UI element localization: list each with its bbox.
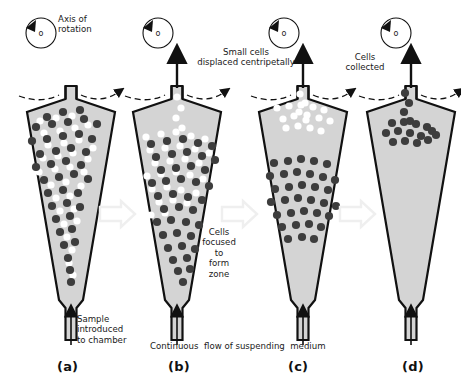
dark-cell-c-5	[266, 172, 274, 180]
light-cell-a-25	[56, 207, 63, 214]
rotation-center-mark-1: o	[156, 29, 161, 38]
dark-cell-c-20	[320, 199, 328, 207]
dark-cell-a-7	[93, 120, 101, 128]
light-cell-a-22	[77, 182, 84, 189]
dark-cell-d-2	[400, 108, 408, 116]
dark-cell-a-15	[67, 144, 75, 152]
dark-cell-a-27	[74, 189, 82, 197]
light-cell-a-24	[66, 192, 73, 199]
dark-cell-c-18	[294, 194, 302, 202]
light-cell-b-5	[157, 130, 164, 137]
sample-introduced-label: Sample introduced to chamber	[77, 314, 126, 345]
dark-cell-c-11	[271, 185, 279, 193]
small-cells-displaced-label: Small cells displaced centripetally	[186, 47, 306, 68]
dark-cell-c-4	[323, 160, 331, 168]
light-cell-a-15	[84, 155, 91, 162]
dark-cell-a-9	[43, 135, 51, 143]
dark-cell-c-13	[298, 181, 306, 189]
outflow-arc-d	[421, 93, 457, 99]
continuous-flow-label: Continuous flow of suspending medium	[150, 341, 326, 351]
dark-cell-c-12	[285, 183, 293, 191]
light-cell-a-30	[68, 246, 75, 253]
inflow-arc-d	[359, 95, 399, 100]
cells-focused-label: Cells focused to form zone	[196, 227, 242, 279]
dark-cell-d-13	[389, 138, 397, 146]
dark-cell-d-5	[400, 118, 408, 126]
light-cell-b-2	[172, 114, 179, 121]
light-cell-b-22	[199, 175, 206, 182]
dark-cell-b-3	[194, 139, 202, 147]
dark-cell-b-6	[168, 150, 176, 158]
dark-cell-a-38	[66, 266, 74, 274]
dark-cell-b-13	[201, 166, 209, 174]
dark-cell-a-22	[55, 173, 63, 181]
outflow-arc-b	[187, 93, 223, 99]
light-cell-a-28	[73, 217, 80, 224]
rotation-center-mark-3: o	[394, 29, 399, 38]
panel-label-c: (c)	[288, 359, 308, 374]
light-cell-b-8	[201, 135, 208, 142]
dark-cell-c-26	[325, 212, 333, 220]
dark-cell-b-39	[186, 265, 194, 273]
dark-cell-c-9	[319, 173, 327, 181]
dark-cell-a-6	[80, 115, 88, 123]
light-cell-a-21	[62, 178, 69, 185]
dark-cell-a-33	[56, 228, 64, 236]
light-cell-b-21	[186, 171, 193, 178]
dark-cell-b-38	[174, 267, 182, 275]
dark-cell-a-8	[28, 137, 36, 145]
light-cell-b-7	[187, 132, 194, 139]
dark-cell-d-16	[424, 136, 432, 144]
dark-cell-b-15	[162, 177, 170, 185]
dark-cell-b-16	[177, 175, 185, 183]
light-cell-a-7	[24, 144, 31, 151]
dark-cell-c-6	[280, 170, 288, 178]
light-cell-b-30	[147, 211, 154, 218]
light-cell-c-4	[279, 115, 286, 122]
dark-cell-b-10	[157, 166, 165, 174]
dark-cell-a-17	[32, 163, 40, 171]
dark-cell-d-9	[394, 127, 402, 135]
panel-label-b: (b)	[168, 359, 190, 374]
dark-cell-a-12	[88, 135, 96, 143]
dark-cell-c-17	[281, 196, 289, 204]
chamber-outline-b	[133, 86, 221, 340]
dark-cell-b-12	[187, 162, 195, 170]
dark-cell-b-24	[175, 203, 183, 211]
dark-cell-b-36	[169, 256, 177, 264]
dark-cell-c-1	[284, 157, 292, 165]
dark-cell-a-2	[76, 106, 84, 114]
light-cell-c-11	[297, 101, 304, 108]
dark-cell-c-24	[300, 207, 308, 215]
dark-cell-d-0	[401, 89, 409, 97]
light-cell-c-5	[290, 112, 297, 119]
dark-cell-a-39	[67, 278, 75, 286]
dark-cell-b-30	[159, 231, 167, 239]
dark-cell-b-8	[198, 152, 206, 160]
cells-collected-label: Cells collected	[338, 52, 392, 73]
panel-label-d: (d)	[402, 359, 424, 374]
dark-cell-b-33	[164, 244, 172, 252]
dark-cell-b-18	[205, 182, 213, 190]
dark-cell-b-11	[172, 164, 180, 172]
dark-cell-b-5	[152, 153, 160, 161]
transition-arrow-2	[222, 201, 257, 227]
dark-cell-d-8	[382, 129, 390, 137]
light-cell-b-16	[181, 155, 188, 162]
light-cell-c-14	[282, 124, 289, 131]
dark-cell-b-4	[208, 142, 216, 150]
dark-cell-b-26	[153, 218, 161, 226]
dark-cell-a-26	[59, 186, 67, 194]
dark-cell-c-22	[273, 211, 281, 219]
light-cell-c-7	[315, 114, 322, 121]
dark-cell-a-4	[48, 120, 56, 128]
dark-cell-b-32	[187, 232, 195, 240]
dark-cell-a-25	[44, 189, 52, 197]
inflow-arc-a	[19, 95, 59, 100]
light-cell-c-17	[317, 127, 324, 134]
inflow-arc-b	[125, 95, 165, 100]
light-cell-b-11	[176, 142, 183, 149]
dark-cell-a-35	[60, 241, 68, 249]
dark-cell-a-36	[71, 238, 79, 246]
dark-cell-a-37	[64, 254, 72, 262]
